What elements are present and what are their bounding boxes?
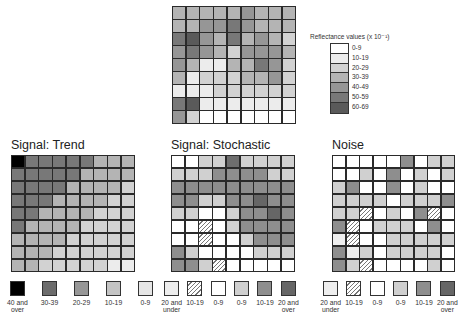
grid-cell [360, 156, 372, 167]
grid-cell [333, 208, 345, 219]
grid-cell [347, 221, 359, 232]
grid-cell [360, 247, 372, 258]
legend-label: 20 and under [319, 299, 342, 313]
grid-cell [283, 111, 295, 123]
grid-cell [374, 247, 386, 258]
grid-cell [199, 234, 211, 245]
legend-label: 0-9 [130, 299, 161, 306]
grid-cell [415, 221, 427, 232]
legend-key: 0-9 [130, 281, 161, 313]
grid-cell [200, 7, 212, 19]
grid-cell [374, 221, 386, 232]
grid-cell [387, 169, 399, 180]
grid-cell [254, 182, 266, 193]
legend-swatch [331, 73, 348, 83]
grid-cell [228, 98, 240, 110]
grid-cell [53, 169, 65, 180]
legend-label: 10-19 [183, 299, 206, 306]
grid-cell [122, 208, 134, 219]
grid-cell [255, 7, 267, 19]
grid-cell [241, 234, 253, 245]
grid-cell [173, 7, 185, 19]
grid-cell [347, 260, 359, 271]
grid-cell [12, 208, 24, 219]
grid-cell [242, 33, 254, 45]
grid-cell [94, 182, 106, 193]
grid-cell [268, 182, 280, 193]
grid-cell [214, 33, 226, 45]
grid-cell [442, 247, 454, 258]
grid-cell [401, 182, 413, 193]
grid-cell [442, 234, 454, 245]
grid-cell [172, 234, 184, 245]
grid-cell [53, 182, 65, 193]
grid-cell [268, 195, 280, 206]
grid-cell [214, 98, 226, 110]
grid-cell [254, 221, 266, 232]
grid-cell [214, 20, 226, 32]
grid-cell [213, 169, 225, 180]
grid-cell [187, 98, 199, 110]
grid-cell [228, 85, 240, 97]
grid-cell [186, 182, 198, 193]
grid-cell [173, 72, 185, 84]
legend-key: 20-29 [66, 281, 97, 313]
legend-swatch [323, 281, 338, 296]
grid-cell [186, 208, 198, 219]
grid-cell [268, 221, 280, 232]
grid-cell [374, 182, 386, 193]
grid-cell [81, 221, 93, 232]
grid-cell [428, 195, 440, 206]
grid-cell [333, 260, 345, 271]
legend-label: 10-19 [412, 299, 435, 306]
grid-cell [227, 234, 239, 245]
grid-cell [39, 169, 51, 180]
grid-cell [242, 85, 254, 97]
grid-cell [39, 234, 51, 245]
grid-cell [227, 182, 239, 193]
grid-cell [108, 195, 120, 206]
grid-cell [415, 247, 427, 258]
grid-cell [172, 260, 184, 271]
panel-title-noise: Noise [332, 138, 364, 152]
grid-cell [442, 208, 454, 219]
grid-cell [333, 195, 345, 206]
grid-cell [213, 195, 225, 206]
grid-cell [415, 260, 427, 271]
grid-cell [255, 59, 267, 71]
grid-cell [108, 182, 120, 193]
grid-cell [254, 156, 266, 167]
grid-cell [200, 33, 212, 45]
legend-swatch [164, 281, 179, 296]
grid-cell [108, 247, 120, 258]
grid-cell [39, 156, 51, 167]
grid-cell [214, 7, 226, 19]
legend-label: 40 and over [2, 299, 33, 313]
legend-key: 0-9 [207, 281, 230, 313]
grid-cell [347, 156, 359, 167]
grid-cell [187, 85, 199, 97]
grid-cell [268, 260, 280, 271]
grid-cell [173, 20, 185, 32]
grid-cell [360, 234, 372, 245]
grid-cell [442, 195, 454, 206]
legend-swatch [331, 54, 348, 64]
grid-cell [360, 195, 372, 206]
grid-cell [269, 59, 281, 71]
legend-swatch [187, 281, 202, 296]
grid-cell [374, 156, 386, 167]
grid-cell [428, 247, 440, 258]
grid-cell [172, 182, 184, 193]
legend-key: 20 and under [319, 281, 342, 313]
grid-cell [39, 221, 51, 232]
grid-cell [81, 182, 93, 193]
grid-cell [347, 247, 359, 258]
grid-cell [442, 260, 454, 271]
grid-cell [172, 156, 184, 167]
grid-cell [415, 156, 427, 167]
grid-cell [81, 156, 93, 167]
grid-cell [214, 59, 226, 71]
grid-cell [415, 169, 427, 180]
legend-label: 0-9 [207, 299, 230, 306]
noise-grid [332, 155, 455, 272]
